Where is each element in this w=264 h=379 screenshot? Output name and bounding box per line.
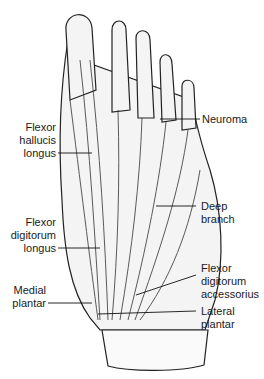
label-flexor-digitorum-accessorius: Flexor digitorum accessorius: [201, 262, 259, 301]
label-neuroma: Neuroma: [202, 113, 247, 126]
big-toe: [66, 15, 96, 100]
label-medial-plantar: Medial plantar: [4, 284, 46, 310]
label-flexor-hallucis-longus: Flexor hallucis longus: [4, 121, 56, 160]
third-toe: [136, 31, 154, 118]
second-toe: [112, 21, 130, 112]
fourth-toe: [160, 55, 176, 122]
label-deep-branch: Deep branch: [201, 200, 235, 226]
heel: [102, 330, 208, 370]
label-flexor-digitorum-longus: Flexor digitorum longus: [4, 216, 56, 255]
fifth-toe: [182, 80, 196, 130]
label-lateral-plantar: Lateral plantar: [201, 305, 235, 331]
